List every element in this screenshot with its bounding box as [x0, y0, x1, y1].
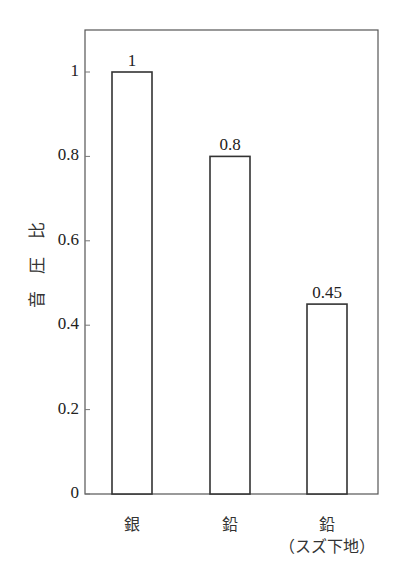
bar-value-label: 0.8 — [219, 135, 240, 154]
bar-chart: 00.20.40.60.81 10.80.45 銀鉛鉛（スズ下地） 音 圧 比 — [0, 0, 401, 577]
y-axis-label: 音 圧 比 — [27, 216, 47, 308]
y-tick-label: 0.4 — [58, 314, 80, 333]
x-category-label: 銀 — [124, 515, 140, 534]
y-tick-label: 1 — [71, 61, 80, 80]
y-tick-label: 0 — [71, 483, 80, 502]
x-axis-category-labels: 銀鉛鉛（スズ下地） — [124, 515, 375, 556]
x-category-label: （スズ下地） — [279, 537, 375, 556]
bars: 10.80.45 — [112, 51, 347, 494]
bar — [112, 72, 152, 494]
y-tick-label: 0.2 — [58, 399, 79, 418]
y-tick-label: 0.8 — [58, 145, 79, 164]
bar — [307, 304, 347, 494]
x-category-label: 鉛 — [222, 515, 238, 534]
y-tick-label: 0.6 — [58, 230, 79, 249]
bar — [210, 156, 250, 494]
x-category-label: 鉛 — [319, 515, 335, 534]
bar-value-label: 0.45 — [312, 283, 342, 302]
bar-value-label: 1 — [128, 51, 137, 70]
